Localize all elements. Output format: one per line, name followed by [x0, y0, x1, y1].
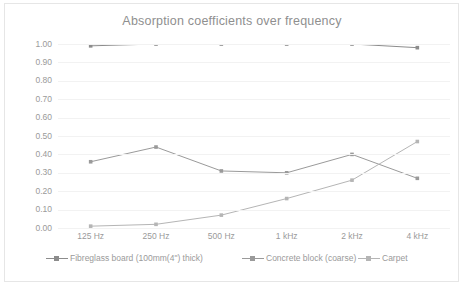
x-tick-label: 4 kHz [406, 231, 428, 241]
data-point-marker [416, 46, 420, 50]
y-tick-label: 0.30 [18, 168, 52, 177]
series-3 [89, 140, 419, 228]
data-point-marker [416, 177, 420, 181]
legend-swatch-icon [358, 254, 380, 263]
data-point-marker [154, 145, 158, 149]
gridline [58, 136, 450, 137]
chart-title: Absorption coefficients over frequency [0, 14, 464, 28]
x-axis: 125 Hz250 Hz500 Hz1 kHz2 kHz4 kHz [58, 231, 450, 243]
x-tick-label: 2 kHz [341, 231, 363, 241]
y-tick-label: 0.50 [18, 132, 52, 141]
data-point-marker [285, 197, 289, 201]
legend-label: Carpet [382, 253, 408, 263]
y-tick-label: 0.80 [18, 76, 52, 85]
y-tick-label: 0.60 [18, 113, 52, 122]
y-tick-label: 0.10 [18, 205, 52, 214]
x-tick-label: 125 Hz [77, 231, 104, 241]
plot-area [58, 44, 450, 228]
data-point-marker [416, 140, 420, 144]
data-point-marker [154, 223, 158, 227]
gridline [58, 191, 450, 192]
gridline [58, 118, 450, 119]
y-tick-label: 0.20 [18, 187, 52, 196]
gridline [58, 173, 450, 174]
y-axis: 0.000.100.200.300.400.500.600.700.800.90… [14, 44, 52, 228]
chart-legend: Fibreglass board (100mm(4") thick)Concre… [46, 253, 446, 269]
gridline [58, 44, 450, 45]
y-tick-label: 0.40 [18, 150, 52, 159]
gridline [58, 99, 450, 100]
y-tick-label: 1.00 [18, 40, 52, 49]
data-point-marker [350, 178, 354, 182]
legend-item[interactable]: Fibreglass board (100mm(4") thick) [46, 253, 203, 263]
data-point-marker [220, 213, 224, 217]
gridline [58, 81, 450, 82]
x-tick-label: 1 kHz [276, 231, 298, 241]
gridline [58, 228, 450, 229]
gridline [58, 62, 450, 63]
chart-figure: Absorption coefficients over frequency 0… [0, 0, 464, 288]
legend-label: Concrete block (coarse) [266, 253, 356, 263]
x-tick-label: 250 Hz [143, 231, 170, 241]
y-tick-label: 0.70 [18, 95, 52, 104]
data-point-marker [89, 160, 93, 164]
legend-swatch-icon [46, 254, 68, 263]
y-tick-label: 0.00 [18, 224, 52, 233]
gridline [58, 154, 450, 155]
y-tick-label: 0.90 [18, 58, 52, 67]
legend-item[interactable]: Concrete block (coarse) [242, 253, 356, 263]
legend-label: Fibreglass board (100mm(4") thick) [70, 253, 203, 263]
legend-item[interactable]: Carpet [358, 253, 408, 263]
series-2 [89, 145, 419, 180]
legend-swatch-icon [242, 254, 264, 263]
x-tick-label: 500 Hz [208, 231, 235, 241]
gridline [58, 210, 450, 211]
